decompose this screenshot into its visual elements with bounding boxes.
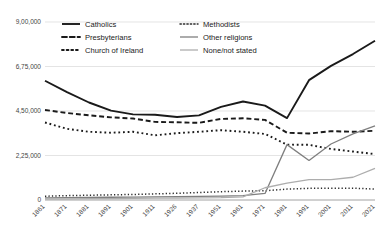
chart-canvas: 02,25,0004,50,0006,75,0009,00,000 186118… [0,0,382,243]
x-axis-tick-label: 1891 [97,202,112,217]
legend-label-catholics[interactable]: Catholics [85,20,116,29]
x-axis-tick-label: 2001 [317,202,332,217]
line-chart: 02,25,0004,50,0006,75,0009,00,000 186118… [0,0,382,243]
x-axis-tick-label: 1961 [229,202,244,217]
gridlines-group [45,22,375,156]
x-axis-tick-label: 1991 [295,202,310,217]
legend-label-presbyterians[interactable]: Presbyterians [85,33,132,42]
series-group [45,41,375,199]
x-axis-tick-label: 1951 [207,202,222,217]
y-axis-tick-label: 4,50,000 [16,107,42,114]
y-axis-tick-label: 0 [37,196,41,203]
y-axis-tick-label: 2,25,000 [16,152,42,159]
x-axis-tick-label: 1926 [163,202,178,217]
legend-label-other-religions[interactable]: Other religions [203,33,253,42]
x-axis-tick-label: 1937 [185,202,200,217]
y-axis-tick-label: 6,75,000 [16,63,42,70]
x-axis-labels-group: 1861187118811891190119111926193719511961… [31,202,376,217]
x-axis-tick-label: 1911 [141,202,156,217]
x-axis-tick-label: 1861 [31,202,46,217]
x-axis-tick-label: 2011 [339,202,354,217]
series-line-methodists [45,188,375,196]
y-axis-tick-label: 9,00,000 [16,18,42,25]
x-axis-tick-label: 1971 [251,202,266,217]
x-axis-tick-label: 1981 [273,202,288,217]
x-axis-tick-label: 2021 [361,202,376,217]
legend-label-church-of-ireland[interactable]: Church of Ireland [85,46,143,55]
series-line-none-not-stated [45,168,375,198]
series-line-other-religions [45,126,375,198]
legend-group: CatholicsMethodistsPresbyteriansOther re… [62,20,257,55]
series-line-presbyterians [45,110,375,134]
x-axis-tick-label: 1901 [119,202,134,217]
legend-label-none-not-stated[interactable]: None/not stated [203,46,257,55]
series-line-church-of-ireland [45,122,375,154]
x-axis-tick-label: 1881 [75,202,90,217]
legend-label-methodists[interactable]: Methodists [203,20,240,29]
x-axis-tick-label: 1871 [53,202,68,217]
y-axis-labels-group: 02,25,0004,50,0006,75,0009,00,000 [16,18,42,203]
